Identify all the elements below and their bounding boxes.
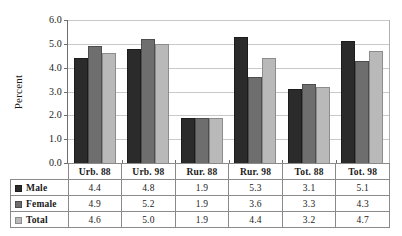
table-cell: 5.1 [336,180,390,196]
table-cell: 4.8 [122,180,176,196]
bar [195,118,209,163]
table-cell: 3.1 [282,180,336,196]
bar [181,118,195,163]
y-axis-tick-label: 1.0 [28,134,62,144]
table-cell: 4.4 [68,180,122,196]
bar [234,37,248,163]
bar [369,51,383,163]
table-cell: 3.6 [229,196,283,212]
table-cell: 5.2 [122,196,176,212]
y-axis-tick-label: 2.0 [28,110,62,120]
table-cell: 1.9 [175,212,229,228]
legend-swatch-icon [15,185,22,192]
table-column-header: Tot. 88 [282,164,336,180]
bar [102,53,116,163]
table-row: Female4.95.21.93.63.34.3 [11,196,390,212]
legend-label: Female [26,199,57,209]
table-column-header: Rur. 98 [229,164,283,180]
bar-group [282,20,336,163]
table-column-header: Rur. 88 [175,164,229,180]
chart-figure: Percent 6.05.04.03.02.01.00.0 Urb. 88Urb… [0,0,402,236]
bar [141,39,155,163]
table-column-header: Tot. 98 [336,164,390,180]
bar-group [336,20,390,163]
y-axis-title: Percent [10,20,26,163]
table-row: Total4.65.01.94.43.24.7 [11,212,390,228]
table-column-header: Urb. 98 [122,164,176,180]
table-cell: 5.3 [229,180,283,196]
legend-entry: Female [11,196,69,212]
table-body: Male4.44.81.95.33.15.1Female4.95.21.93.6… [11,180,390,228]
bar [88,46,102,163]
bar-group [122,20,176,163]
bar-groups [68,20,389,163]
y-axis-tick-label: 6.0 [28,15,62,25]
table-header-row: Urb. 88Urb. 98Rur. 88Rur. 98Tot. 88Tot. … [11,164,390,180]
table-cell: 4.9 [68,196,122,212]
legend-label: Male [26,183,47,193]
bar-group [68,20,122,163]
table-corner-cell [11,164,69,180]
bar [127,49,141,163]
table-cell: 4.6 [68,212,122,228]
y-axis-title-label: Percent [12,74,24,108]
bar [248,77,262,163]
legend-entry: Male [11,180,69,196]
bar [262,58,276,163]
table-cell: 3.2 [282,212,336,228]
bar-group [229,20,283,163]
table-cell: 5.0 [122,212,176,228]
bar [155,44,169,163]
table-cell: 1.9 [175,196,229,212]
table-cell: 4.7 [336,212,390,228]
table-cell: 1.9 [175,180,229,196]
legend-entry: Total [11,212,69,228]
bar [288,89,302,163]
table-header: Urb. 88Urb. 98Rur. 88Rur. 98Tot. 88Tot. … [11,164,390,180]
table-column-header: Urb. 88 [68,164,122,180]
data-table: Urb. 88Urb. 98Rur. 88Rur. 98Tot. 88Tot. … [10,163,390,228]
bar [209,118,223,163]
plot-area [67,20,390,163]
table-cell: 4.4 [229,212,283,228]
y-axis-tick-label: 3.0 [28,87,62,97]
table-row: Male4.44.81.95.33.15.1 [11,180,390,196]
legend-label: Total [26,215,48,225]
bar [302,84,316,163]
y-axis-tick-labels: 6.05.04.03.02.01.00.0 [28,20,62,163]
bar [341,41,355,163]
bar [74,58,88,163]
table-cell: 4.3 [336,196,390,212]
y-axis-tick-label: 5.0 [28,39,62,49]
legend-swatch-icon [15,217,22,224]
table-cell: 3.3 [282,196,336,212]
bar [316,87,330,163]
bar [355,61,369,163]
y-axis-tick-label: 4.0 [28,63,62,73]
bar-group [175,20,229,163]
legend-swatch-icon [15,201,22,208]
